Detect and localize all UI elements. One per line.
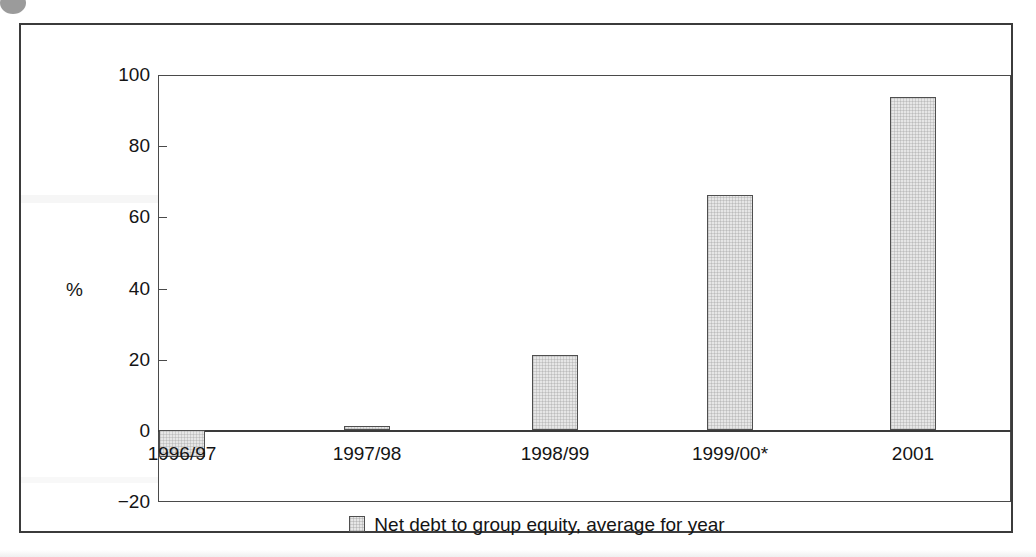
legend-swatch-icon <box>349 516 365 532</box>
y-tick-label-100: 100 <box>92 65 150 84</box>
y-axis-labels: 100 80 60 40 20 0 −20 <box>76 75 150 502</box>
plot-area <box>158 75 1011 502</box>
y-tick-label-0: 0 <box>92 421 150 440</box>
bar-1997-98[interactable] <box>344 426 390 430</box>
y-tick-label-80: 80 <box>92 136 150 155</box>
legend: Net debt to group equity, average for ye… <box>201 507 873 541</box>
y-tick-label-40: 40 <box>92 279 150 298</box>
page-bottom-shade <box>0 550 1036 557</box>
y-tick-mark-60 <box>158 217 167 218</box>
x-tick-label-1996-97: 1996/97 <box>148 443 217 465</box>
figure-frame: 100 80 60 40 20 0 −20 % 1996/97 1997/98 … <box>19 23 1013 533</box>
y-tick-mark-20 <box>158 360 167 361</box>
y-tick-mark-80 <box>158 146 167 147</box>
legend-label: Net debt to group equity, average for ye… <box>374 515 724 534</box>
x-tick-label-1999-00: 1999/00* <box>692 443 768 465</box>
y-tick-mark-40 <box>158 289 167 290</box>
bar-2001[interactable] <box>890 97 936 430</box>
bar-1999-00[interactable] <box>707 195 753 430</box>
y-tick-label-60: 60 <box>92 207 150 226</box>
x-tick-label-1998-99: 1998/99 <box>521 443 590 465</box>
zero-baseline <box>158 430 1011 432</box>
x-tick-label-2001: 2001 <box>892 443 934 465</box>
y-tick-label-neg20: −20 <box>92 492 150 511</box>
y-axis-unit-label: % <box>66 280 83 299</box>
y-tick-label-20: 20 <box>92 350 150 369</box>
x-axis-labels: 1996/97 1997/98 1998/99 1999/00* 2001 <box>158 443 1011 473</box>
x-tick-label-1997-98: 1997/98 <box>333 443 402 465</box>
bar-1998-99[interactable] <box>532 355 578 430</box>
scan-artifact-blob <box>0 0 26 14</box>
